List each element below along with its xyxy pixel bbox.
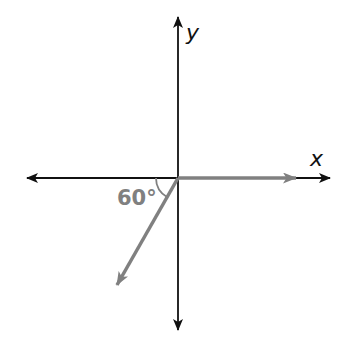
y-axis-label: y — [185, 20, 200, 45]
vector-diagram: y x 60° — [0, 0, 359, 349]
x-axis-label: x — [309, 146, 324, 171]
angle-arc — [156, 178, 167, 197]
angle-label: 60° — [117, 186, 157, 210]
